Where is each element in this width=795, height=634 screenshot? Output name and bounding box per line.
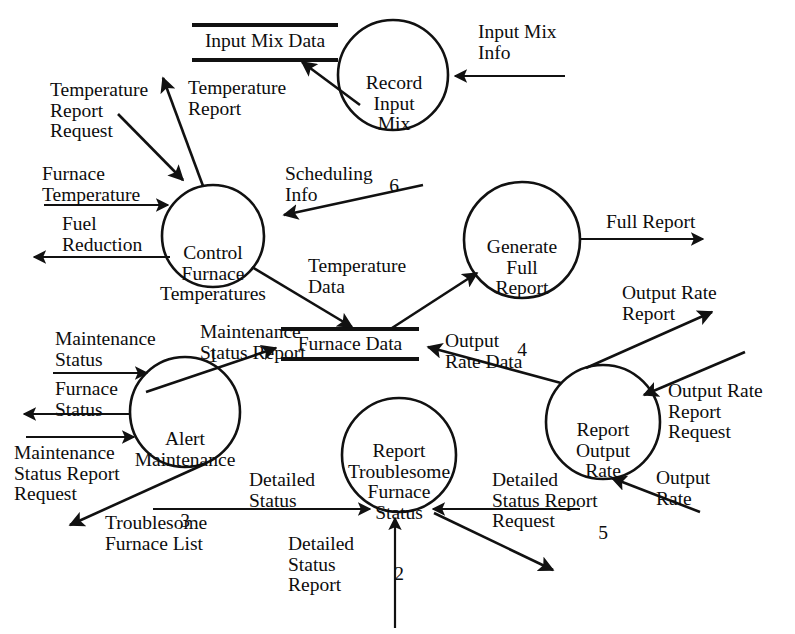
process-6-label: Record Input Mix 6: [330, 32, 458, 237]
flow-label-output-rate-report: Output Rate Report: [622, 283, 717, 324]
flow-label-temperature-report: Temperature Report: [188, 78, 286, 119]
flow-label-full-report: Full Report: [606, 212, 695, 233]
flow-label-maintenance-status-report-request: Maintenance Status Report Request: [14, 443, 120, 505]
dfd-canvas: Control Furnace Temperatures 1 Report Tr…: [0, 0, 795, 634]
flow-label-output-rate-report-request: Output Rate Report Request: [668, 381, 763, 443]
flow-label-output-rate-data: Output Rate Data: [445, 331, 522, 372]
flow-label-detailed-status: Detailed Status Report Request: [492, 470, 598, 532]
flow-label-temperature-data: Temperature Data: [308, 256, 406, 297]
flow-label-status-data: Maintenance Status Report: [200, 322, 306, 363]
flow-label-furnace-temperature: Furnace Temperature: [42, 164, 140, 205]
flow-label-furnace-status: Furnace Status: [55, 379, 118, 420]
flow-label-troublesome-furnace-list: Detailed Status: [249, 470, 315, 511]
flow-label-temperature-report-request: Temperature Report Request: [50, 80, 148, 142]
flow-label-input-mix-info: Input Mix Info: [478, 22, 557, 63]
flow-label-output-rate: Output Rate: [656, 468, 710, 509]
data-store-input-mix-data-label: Input Mix Data: [192, 31, 338, 51]
flow-label-maintenance-status-report: Troublesome Furnace List: [105, 513, 207, 554]
flow-label-detailed-status-report-request: Detailed Status Report: [288, 534, 354, 596]
flow-label-scheduling-info: Scheduling Info: [285, 164, 373, 205]
flow-label-maintenance-status: Maintenance Status: [55, 329, 156, 370]
flow-label-fuel-reduction: Fuel Reduction: [62, 214, 142, 255]
process-1-label: Control Furnace Temperatures 1: [143, 202, 283, 407]
